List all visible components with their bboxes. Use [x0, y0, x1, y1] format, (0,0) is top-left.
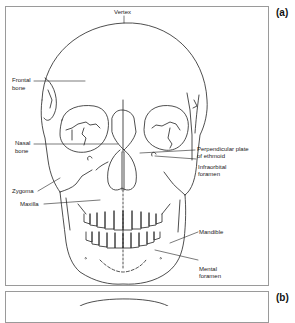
leader-lines — [34, 16, 198, 260]
upper-teeth — [84, 211, 162, 230]
panel-b-skull-top — [80, 299, 168, 306]
label-infraorbital-foramen-line2: foramen — [198, 171, 220, 178]
label-infraorbital-foramen-line1: Infraorbital — [198, 164, 226, 171]
label-mental-foramen-line2: foramen — [199, 273, 221, 280]
right-orbit — [144, 106, 188, 151]
label-nasal-bone-line2: bone — [15, 148, 28, 155]
label-frontal-bone-line2: bone — [12, 85, 25, 92]
label-zygoma: Zygoma — [12, 188, 34, 195]
label-vertex: Vertex — [114, 9, 131, 16]
cranium-outline — [42, 23, 207, 195]
label-mandible: Mandible — [199, 229, 223, 236]
label-perpendicular-plate-line2: of ethmoid — [197, 153, 225, 160]
label-maxilla: Maxilla — [20, 201, 39, 208]
lower-teeth — [86, 232, 160, 248]
label-mental-foramen-line1: Mental — [199, 266, 217, 273]
label-frontal-bone-line1: Frontal — [12, 77, 31, 84]
label-perpendicular-plate-line1: Perpendicular plate — [197, 146, 249, 153]
label-nasal-bone-line1: Nasal — [15, 140, 30, 147]
